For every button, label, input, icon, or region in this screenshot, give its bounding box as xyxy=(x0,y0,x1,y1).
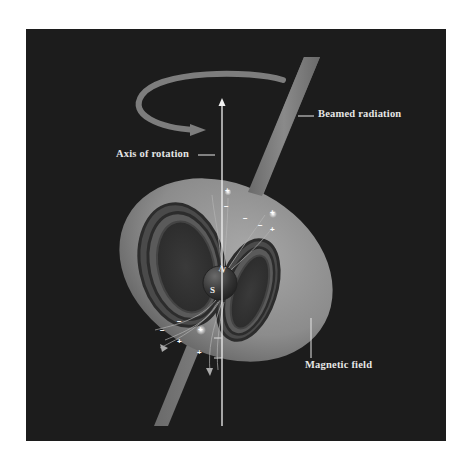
positive-charge: + xyxy=(198,326,203,334)
negative-charge: − xyxy=(243,215,248,223)
magnetic-field-label: Magnetic field xyxy=(305,359,372,370)
negative-charge: − xyxy=(160,327,165,335)
negative-charge: − xyxy=(258,222,263,230)
positive-charge: + xyxy=(177,338,182,346)
positive-charge: + xyxy=(197,349,202,357)
south-pole-label: S xyxy=(210,285,215,295)
beamed-radiation-label: Beamed radiation xyxy=(318,108,401,119)
rotation-arrow-icon xyxy=(139,74,283,136)
field-arrowhead xyxy=(206,368,213,376)
field-arrowhead xyxy=(160,344,168,352)
negative-charge: − xyxy=(177,318,182,326)
axis-of-rotation-label: Axis of rotation xyxy=(116,148,189,159)
pulsar-illustration xyxy=(0,0,466,459)
positive-charge: + xyxy=(225,187,230,195)
negative-charge: − xyxy=(224,203,229,211)
positive-charge: + xyxy=(270,209,275,217)
positive-charge: + xyxy=(270,226,275,234)
axis-arrowhead-icon xyxy=(219,98,226,106)
